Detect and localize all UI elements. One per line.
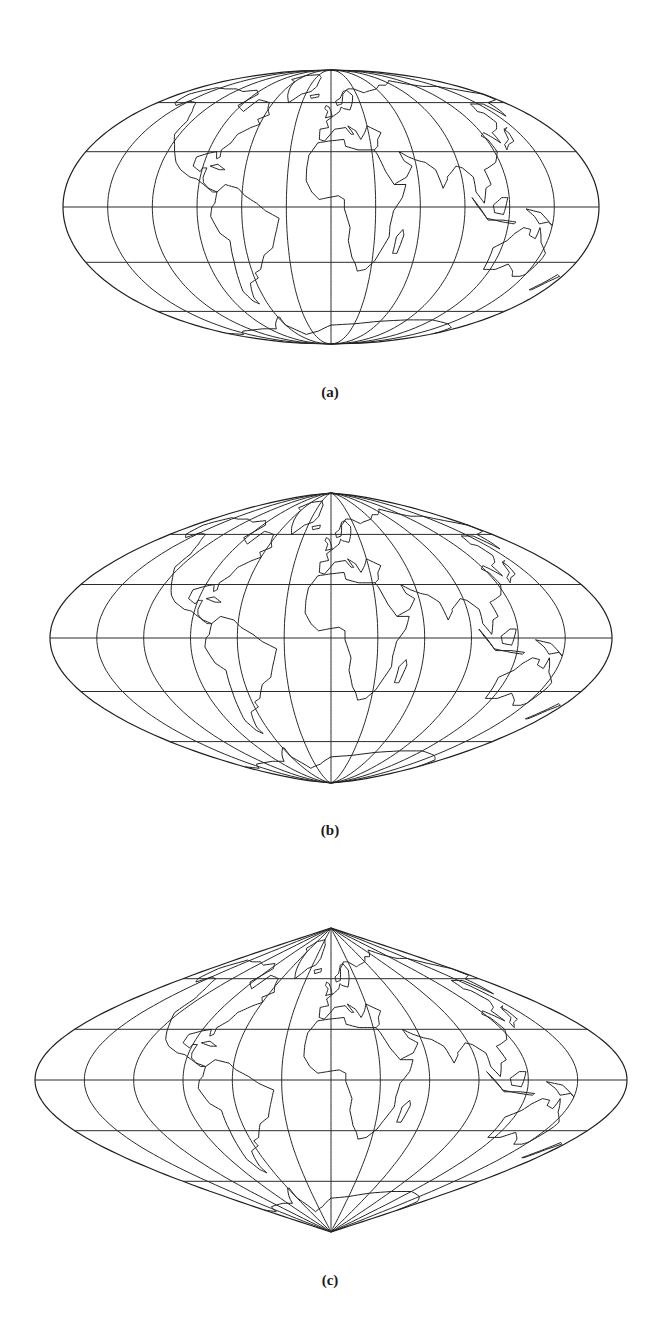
coastline-newguinea [536,640,563,656]
coastline-greenland [288,75,322,103]
coastline-newguinea [546,1082,574,1097]
caption-c: (c) [300,1272,360,1289]
map-panel-b [50,493,612,783]
coastline-japan [502,561,515,583]
coastline-borneo [510,1072,526,1087]
coastline-antarctica [228,317,452,334]
coastline-japan [504,128,514,150]
coastline-madagascar [393,230,404,254]
coastline-madagascar [397,1100,411,1122]
coastline-europe [319,509,468,572]
coastline-cuba [206,597,221,602]
coastline-australia [485,658,551,706]
map-panel-a [63,70,599,344]
coastline-southamerica [205,616,277,733]
coastline-australia [488,1099,560,1145]
coastline-cuba [201,1041,216,1046]
coastline-europe [319,81,483,140]
coastline-africa [305,572,409,700]
coastline-iceland [312,525,320,530]
projection-comparison-figure: (a) (b) (c) [0,0,657,1326]
caption-a: (a) [300,384,360,401]
coastline-australia [483,228,545,277]
coastline-newguinea [526,209,552,226]
coastline-southamerica [198,1060,273,1173]
coastline-northamerica [166,960,279,1066]
coastline-iceland [310,94,319,98]
coastline-europeS [319,1004,380,1028]
coastline-nz [525,704,560,719]
map-panel-c [35,928,627,1232]
coastline-cuba [210,164,225,169]
coastline-europeS [319,126,381,150]
coastline-madagascar [394,660,407,683]
coastline-borneo [493,198,508,215]
coastline-borneo [501,629,516,645]
coastline-iceland [314,969,321,974]
world-maps-canvas [0,0,657,1326]
coastline-northamerica [174,88,269,192]
coastline-northamerica [171,518,274,624]
caption-b: (b) [300,822,360,839]
coastline-africa [306,139,406,271]
